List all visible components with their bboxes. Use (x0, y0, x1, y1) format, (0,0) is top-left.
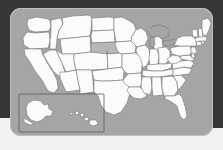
state-maine[interactable] (202, 18, 211, 36)
state-montana[interactable] (57, 15, 92, 39)
state-alabama[interactable] (152, 77, 163, 96)
state-ohio[interactable] (158, 47, 170, 64)
state-washington[interactable] (27, 17, 51, 32)
lake-michigan-water (149, 37, 155, 48)
map-panel[interactable] (10, 8, 213, 136)
state-kansas[interactable] (107, 51, 122, 69)
us-map-svg[interactable] (10, 8, 213, 136)
state-indiana[interactable] (149, 49, 159, 66)
state-north-dakota[interactable] (92, 17, 114, 31)
state-colorado[interactable] (74, 51, 108, 70)
state-wyoming[interactable] (60, 36, 91, 54)
state-alaska[interactable] (24, 100, 53, 125)
state-hawaii[interactable] (70, 111, 98, 126)
state-florida[interactable] (165, 94, 187, 120)
state-vermont[interactable] (192, 29, 198, 37)
screenshot-stage (0, 0, 223, 150)
state-oregon[interactable] (23, 32, 50, 49)
state-texas[interactable] (94, 80, 130, 115)
state-pennsylvania[interactable] (170, 46, 192, 56)
state-new-york[interactable] (174, 36, 197, 46)
state-south-dakota[interactable] (91, 30, 115, 43)
